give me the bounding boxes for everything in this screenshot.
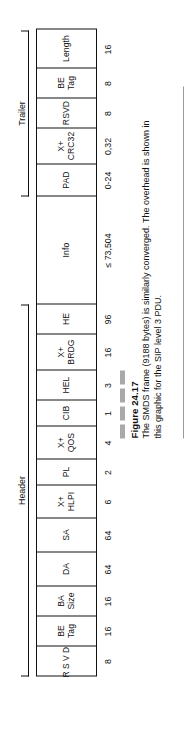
pdu-field-cell: X+ QOS: [37, 425, 96, 458]
pdu-field-cell: X+ CRC32: [37, 127, 96, 163]
pdu-field-cell: BE Tag: [37, 67, 96, 97]
pdu-field-cell: HEL: [37, 369, 96, 399]
pdu-field-size: 8: [99, 646, 117, 676]
pdu-field-cell: SA: [37, 517, 96, 551]
pdu-field-cell: PAD: [37, 163, 96, 195]
pdu-field-size: 6: [99, 485, 117, 518]
trailer-span-bracket: Trailer: [14, 30, 29, 196]
pdu-field-size: 64: [99, 518, 117, 552]
figure-canvas: Header Trailer RSVDBE TagBA SizeDASAX+ H…: [0, 0, 190, 731]
pdu-field-cell: HE: [37, 303, 96, 333]
bracket-bar: [28, 30, 29, 196]
pdu-field-cell: DA: [37, 551, 96, 585]
pdu-field-size: 8: [99, 98, 117, 128]
pdu-field-size: 8: [99, 68, 117, 98]
pdu-field-cell: X+ BRDG: [37, 333, 96, 369]
caption-underline: [183, 86, 184, 438]
pdu-field-cell: BA Size: [37, 585, 96, 615]
pdu-field-size: 1: [99, 400, 117, 426]
decorative-dashes: [120, 86, 125, 438]
header-bracket-label: Header: [17, 304, 27, 676]
bracket-bar: [28, 304, 29, 676]
pdu-field-cell: Length: [37, 29, 96, 67]
pdu-field-size: 3: [99, 370, 117, 400]
header-span-bracket: Header: [14, 304, 29, 676]
pdu-field-cell: Info: [37, 195, 96, 303]
pdu-field-size: 4: [99, 426, 117, 459]
pdu-field-size: 0,32: [99, 128, 117, 164]
figure-number: Figure 24.17: [129, 86, 140, 438]
pdu-field-size: ≤ 73,504: [99, 196, 117, 304]
figure-caption-block: Figure 24.17 The SMDS frame (9188 bytes)…: [120, 86, 164, 438]
pdu-field-size: 64: [99, 552, 117, 586]
pdu-field-size: 2: [99, 459, 117, 485]
pdu-field-cell: X+ HLPI: [37, 484, 96, 517]
pdu-field-size: 16: [99, 586, 117, 616]
pdu-field-size: 0-24: [99, 164, 117, 196]
dash-mark-icon: [120, 388, 125, 402]
pdu-field-size: 96: [99, 304, 117, 334]
pdu-field-cell: PL: [37, 458, 96, 484]
pdu-field-cell: BE Tag: [37, 615, 96, 645]
pdu-field-cell: RSVD: [37, 645, 96, 675]
trailer-bracket-label: Trailer: [17, 30, 27, 196]
pdu-field-cell: RSVD: [37, 97, 96, 127]
dash-mark-icon: [120, 370, 125, 384]
field-size-row: 816166464624131696≤ 73,5040-240,328816: [99, 30, 117, 676]
pdu-field-size: 16: [99, 334, 117, 370]
pdu-field-size: 16: [99, 616, 117, 646]
figure-caption-text: The SMDS frame (9188 bytes) is similarly…: [141, 108, 164, 438]
dash-mark-icon: [120, 406, 125, 420]
pdu-field-cell: CIB: [37, 399, 96, 425]
pdu-field-size: 16: [99, 30, 117, 68]
dash-mark-icon: [120, 424, 125, 438]
pdu-field-table: RSVDBE TagBA SizeDASAX+ HLPIPLX+ QOSCIBH…: [36, 28, 97, 676]
